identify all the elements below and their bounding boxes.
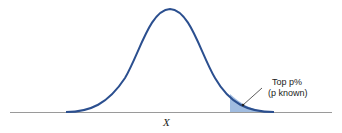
normal-curve-diagram: Top p% (p known) X (0, 0, 342, 133)
annotation-line2: (p known) (268, 88, 308, 98)
bell-curve (66, 9, 274, 112)
annotation-leader-line (243, 88, 262, 105)
x-axis-label: X (162, 116, 171, 128)
leader-arrow-tip (242, 104, 245, 107)
annotation-line1: Top p% (272, 77, 302, 87)
